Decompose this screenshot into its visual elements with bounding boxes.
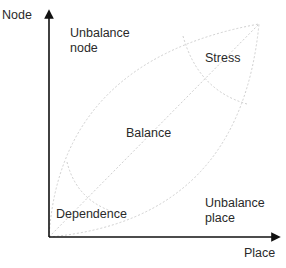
region-balance: Balance [126,126,171,141]
region-unbalance-place: Unbalance place [205,196,265,226]
region-unbalance-node: Unbalance node [70,26,130,56]
region-dependence: Dependence [56,207,127,222]
region-stress: Stress [205,51,240,66]
y-axis-label: Node [2,8,32,23]
x-axis-label: Place [244,246,275,261]
